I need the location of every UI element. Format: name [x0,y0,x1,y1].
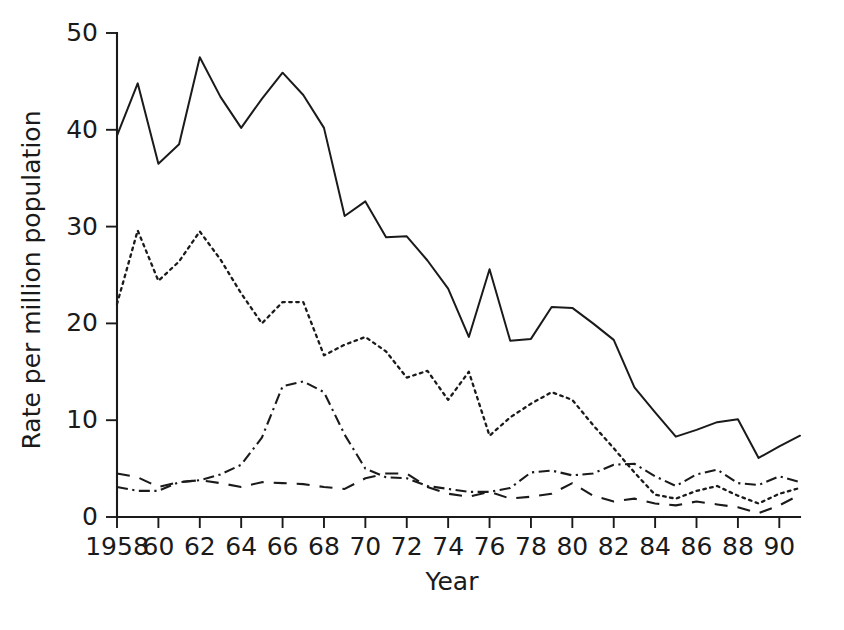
x-tick-label: 90 [763,532,795,561]
x-axis-title: Year [425,567,480,596]
x-tick-label: 78 [515,532,547,561]
y-tick-label: 10 [66,405,98,434]
series-line-series-dashed [117,473,800,513]
chart-figure: 01020304050 1958606264666870727476788082… [0,0,844,630]
x-axis-tick-labels: 195860626466687072747678808284868890 [85,532,795,561]
x-tick-label: 62 [184,532,216,561]
x-tick-label: 64 [225,532,257,561]
x-tick-label: 66 [267,532,299,561]
y-tick-label: 30 [66,212,98,241]
x-tick-label: 86 [681,532,713,561]
series-line-series-dotted [117,230,800,503]
x-tick-label: 76 [474,532,506,561]
x-tick-label: 70 [349,532,381,561]
y-tick-label: 20 [66,308,98,337]
x-tick-label: 84 [639,532,671,561]
line-chart: 01020304050 1958606264666870727476788082… [0,0,844,630]
x-tick-label: 82 [598,532,630,561]
x-tick-label: 80 [556,532,588,561]
axes [117,33,800,517]
y-tick-label: 40 [66,115,98,144]
x-tick-label: 74 [432,532,464,561]
x-tick-label: 1958 [85,532,149,561]
y-tick-label: 0 [82,502,98,531]
y-tick-label: 50 [66,18,98,47]
data-series [117,57,800,513]
x-tick-label: 72 [391,532,423,561]
x-tick-label: 88 [722,532,754,561]
x-tick-label: 60 [142,532,174,561]
series-line-series-dashdot [117,381,800,491]
y-axis-title: Rate per million population [17,110,46,449]
y-axis-tick-labels: 01020304050 [66,18,98,531]
series-line-total [117,57,800,458]
x-tick-label: 68 [308,532,340,561]
